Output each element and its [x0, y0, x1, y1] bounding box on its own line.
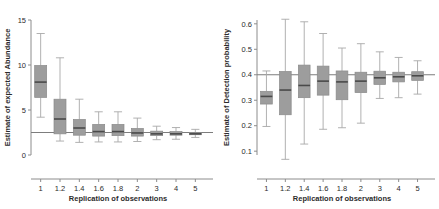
y-axis-title: Estimate of expected Abundance — [3, 29, 12, 147]
boxplot-box — [298, 22, 310, 144]
x-tick-label: 4 — [397, 184, 401, 193]
x-tick-label: 1.2 — [55, 184, 65, 193]
boxplot-box — [317, 34, 329, 130]
box-iqr — [355, 72, 367, 92]
x-tick-label: 5 — [415, 184, 419, 193]
x-tick-label: 1.4 — [74, 184, 84, 193]
y-tick-label: 0.6 — [242, 20, 252, 29]
x-tick-label: 1.8 — [337, 184, 347, 193]
x-axis-title: Replication of observations — [293, 194, 391, 203]
x-tick-label: 3 — [155, 184, 159, 193]
y-tick-label: 15 — [18, 16, 26, 25]
x-tick-label: 1.8 — [113, 184, 123, 193]
x-tick-label: 1.4 — [299, 184, 309, 193]
boxplot-box — [355, 44, 367, 123]
x-tick-label: 2 — [135, 184, 139, 193]
x-tick-label: 1.6 — [93, 184, 103, 193]
detection-boxplot-svg: 0.10.20.30.40.50.6Estimate of Detection … — [219, 0, 439, 209]
boxplot-box — [131, 118, 143, 141]
boxplot-box — [35, 34, 47, 118]
chart-panel-abundance: 051015Estimate of expected Abundance11.2… — [0, 0, 219, 209]
figure-root: 051015Estimate of expected Abundance11.2… — [0, 0, 439, 209]
y-axis-title: Estimate of Detection probability — [222, 28, 231, 146]
x-tick-label: 5 — [193, 184, 197, 193]
x-tick-label: 1 — [264, 184, 268, 193]
x-tick-label: 1.6 — [318, 184, 328, 193]
boxplot-box — [261, 71, 273, 127]
x-tick-label: 4 — [174, 184, 178, 193]
x-tick-label: 1.2 — [280, 184, 290, 193]
x-tick-label: 3 — [378, 184, 382, 193]
boxplot-box — [279, 19, 291, 159]
y-tick-label: 0.3 — [242, 96, 252, 105]
y-tick-label: 5 — [22, 106, 26, 115]
boxplot-box — [170, 128, 182, 140]
y-tick-label: 0.2 — [242, 121, 252, 130]
boxplot-box — [374, 52, 386, 99]
x-tick-label: 2 — [359, 184, 363, 193]
boxplot-box — [412, 61, 424, 94]
y-tick-label: 0.5 — [242, 45, 252, 54]
boxplot-box — [112, 112, 124, 142]
box-iqr — [336, 71, 348, 100]
box-iqr — [261, 91, 273, 104]
box-iqr — [279, 71, 291, 114]
abundance-boxplot-svg: 051015Estimate of expected Abundance11.2… — [0, 0, 219, 209]
boxplot-box — [73, 99, 85, 142]
boxplot-box — [54, 58, 66, 141]
chart-panel-detection: 0.10.20.30.40.50.6Estimate of Detection … — [219, 0, 438, 209]
box-iqr — [298, 65, 310, 98]
boxplot-box — [151, 126, 163, 140]
boxplot-box — [93, 112, 105, 142]
y-tick-label: 10 — [18, 61, 26, 70]
box-iqr — [54, 99, 66, 134]
y-tick-label: 0.1 — [242, 147, 252, 156]
boxplot-box — [393, 57, 405, 97]
box-iqr — [112, 124, 124, 135]
y-tick-label: 0.4 — [242, 70, 252, 79]
x-axis-title: Replication of observations — [69, 194, 167, 203]
x-tick-label: 1 — [39, 184, 43, 193]
boxplot-box — [336, 48, 348, 128]
box-iqr — [93, 124, 105, 136]
boxplot-box — [189, 129, 201, 137]
y-tick-label: 0 — [22, 151, 26, 160]
